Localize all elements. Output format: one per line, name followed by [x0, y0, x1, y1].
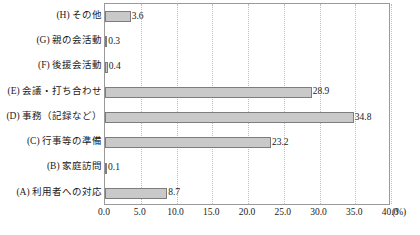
bar-row: 23.2 — [105, 130, 389, 155]
plot-area: 3.60.30.428.934.823.20.18.7 — [104, 3, 390, 205]
bar: 0.3 — [105, 36, 107, 47]
bar-value-label: 0.3 — [108, 37, 120, 47]
bar: 28.9 — [105, 87, 312, 98]
bar-value-label: 8.7 — [168, 189, 180, 199]
x-tick-label: 0.0 — [98, 208, 110, 218]
category-label: (H) その他 — [0, 3, 104, 28]
bar-value-label: 0.4 — [109, 62, 121, 72]
bar: 0.1 — [105, 163, 107, 174]
bar: 23.2 — [105, 137, 271, 148]
bar-value-label: 0.1 — [108, 163, 120, 173]
x-tick-label: 30.0 — [310, 208, 327, 218]
bar-value-label: 28.9 — [313, 88, 330, 98]
x-tick-label: 35.0 — [346, 208, 363, 218]
x-tick-label: 25.0 — [274, 208, 291, 218]
x-tick-label: 5.0 — [134, 208, 146, 218]
bar-row: 34.8 — [105, 105, 389, 130]
category-label: (F) 後援会活動 — [0, 54, 104, 79]
bar-row: 0.3 — [105, 29, 389, 54]
bar-row: 3.6 — [105, 4, 389, 29]
bar-row: 28.9 — [105, 80, 389, 105]
x-tick-label: 10.0 — [167, 208, 184, 218]
bar: 3.6 — [105, 11, 131, 22]
bar-row: 8.7 — [105, 181, 389, 206]
bar-row: 0.4 — [105, 55, 389, 80]
bar: 34.8 — [105, 112, 354, 123]
x-tick-label: 20.0 — [239, 208, 256, 218]
category-label: (A) 利用者への対応 — [0, 180, 104, 205]
category-label: (G) 親の会活動 — [0, 28, 104, 53]
axis-unit-label: (%) — [392, 208, 406, 218]
bar: 0.4 — [105, 62, 108, 73]
bar-value-label: 23.2 — [272, 138, 289, 148]
category-label: (E) 会議・打ち合わせ — [0, 79, 104, 104]
bar-value-label: 3.6 — [132, 12, 144, 22]
category-label: (B) 家庭訪問 — [0, 155, 104, 180]
bar-row: 0.1 — [105, 156, 389, 181]
x-tick-label: 15.0 — [203, 208, 220, 218]
category-label: (C) 行事等の準備 — [0, 129, 104, 154]
bar-value-label: 34.8 — [355, 113, 372, 123]
bar: 8.7 — [105, 188, 167, 199]
category-label: (D) 事務（記録など） — [0, 104, 104, 129]
horizontal-bar-chart: (H) その他(G) 親の会活動(F) 後援会活動(E) 会議・打ち合わせ(D)… — [0, 0, 420, 235]
gridline — [391, 4, 392, 204]
